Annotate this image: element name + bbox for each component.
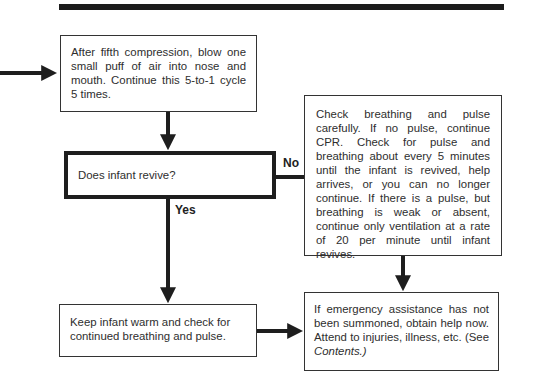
no-label: No <box>283 156 299 170</box>
final-box: If emergency assistance has not been sum… <box>304 292 499 371</box>
yes-label: Yes <box>175 203 196 217</box>
yes-branch-box: Keep infant warm and check for continued… <box>59 304 257 357</box>
final-text-main: If emergency assistance has not been sum… <box>314 303 489 343</box>
decision-box: Does infant revive? <box>64 151 276 199</box>
step-ventilate-text: After fifth compression, blow one small … <box>71 45 246 101</box>
final-text: If emergency assistance has not been sum… <box>314 302 489 358</box>
decision-text: Does infant revive? <box>78 168 262 182</box>
no-branch-text: Check breathing and pulse carefully. If … <box>316 107 490 261</box>
contents-reference: Contents.) <box>314 345 367 357</box>
step-ventilate-box: After fifth compression, blow one small … <box>60 35 257 112</box>
no-branch-box: Check breathing and pulse carefully. If … <box>304 95 502 256</box>
yes-branch-text: Keep infant warm and check for continued… <box>70 315 246 343</box>
